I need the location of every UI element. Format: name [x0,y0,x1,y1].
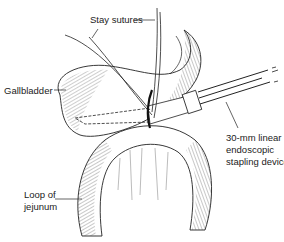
label-device-3: stapling device [226,156,284,167]
label-gallbladder: Gallbladder [4,85,53,96]
label-device-1: 30-mm linear [226,132,281,143]
label-device-2: endoscopic [226,144,274,155]
jejunum-loop-shape [78,126,212,236]
label-stay-sutures: Stay sutures [90,14,143,25]
label-loop-of-jejunum-1: Loop of [24,189,56,200]
diagram-canvas: Stay sutures Gallbladder Loop of jejunum… [0,0,284,242]
gallbladder-shape [58,30,201,136]
label-loop-of-jejunum-2: jejunum [24,201,57,212]
